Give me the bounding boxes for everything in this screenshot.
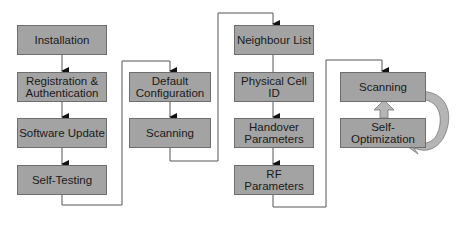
step-scanning-1: Scanning [129, 118, 211, 148]
step-self-testing: Self-Testing [17, 165, 107, 195]
step-default-configuration: Default Configuration [129, 72, 211, 102]
step-neighbour-list: Neighbour List [234, 25, 314, 55]
step-installation: Installation [17, 25, 107, 55]
step-software-update: Software Update [17, 118, 107, 148]
step-registration-authentication: Registration & Authentication [17, 72, 107, 102]
step-handover-parameters: Handover Parameters [234, 118, 314, 148]
step-rf-parameters: RF Parameters [234, 165, 314, 195]
step-scanning-2: Scanning [340, 72, 426, 102]
step-physical-cell-id: Physical Cell ID [234, 72, 314, 102]
step-self-optimization: Self-Optimization [340, 118, 426, 148]
